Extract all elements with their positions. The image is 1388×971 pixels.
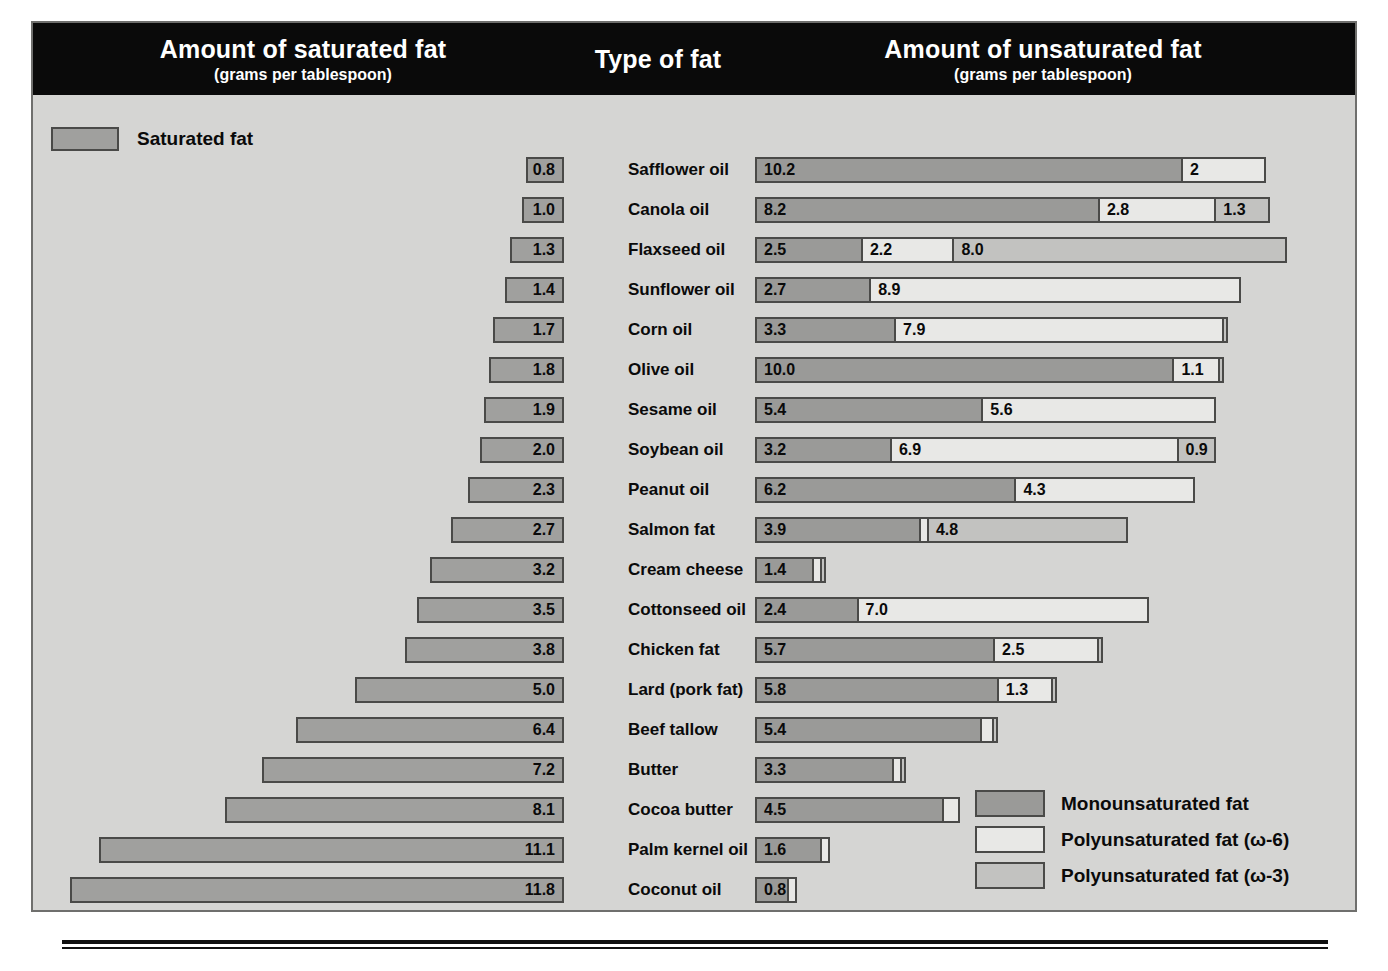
saturated-fat-swatch <box>51 127 119 151</box>
saturated-fat-bar: 1.0 <box>522 197 564 223</box>
saturated-fat-bar: 2.3 <box>468 477 564 503</box>
unsaturated-segment-o6 <box>942 799 958 821</box>
unsaturated-fat-bar: 5.45.6 <box>755 397 1216 423</box>
footer-rule-thick <box>62 940 1328 944</box>
saturated-fat-bar: 5.0 <box>355 677 565 703</box>
header-saturated-title: Amount of saturated fat <box>160 35 447 63</box>
chart-row: 3.8Chicken fat5.72.5 <box>33 630 1355 670</box>
saturated-fat-value: 2.3 <box>533 481 555 499</box>
segment-value: 8.2 <box>757 201 786 219</box>
segment-value: 1.3 <box>1216 201 1245 219</box>
segment-value: 7.0 <box>859 601 888 619</box>
saturated-fat-bar: 8.1 <box>225 797 564 823</box>
unsaturated-segment-o6 <box>787 879 795 901</box>
unsaturated-segment-mufa: 2.7 <box>757 279 869 301</box>
saturated-fat-bar: 3.8 <box>405 637 564 663</box>
saturated-fat-bar: 1.8 <box>489 357 564 383</box>
unsaturated-fat-bar: 5.4 <box>755 717 998 743</box>
saturated-fat-value: 3.2 <box>533 561 555 579</box>
segment-value: 5.4 <box>757 721 786 739</box>
chart-row: 0.8Safflower oil10.22 <box>33 150 1355 190</box>
chart-row: 2.0Soybean oil3.26.90.9 <box>33 430 1355 470</box>
saturated-fat-bar: 1.7 <box>493 317 564 343</box>
chart-body: Saturated fat Monounsaturated fatPolyuns… <box>33 95 1355 912</box>
chart-row: 11.1Palm kernel oil1.6 <box>33 830 1355 870</box>
unsaturated-segment-mufa: 10.0 <box>757 359 1172 381</box>
segment-value: 5.6 <box>983 401 1012 419</box>
header-unsaturated-subtitle: (grams per tablespoon) <box>954 66 1132 84</box>
unsaturated-segment-mufa: 8.2 <box>757 199 1098 221</box>
chart-row: 8.1Cocoa butter4.5 <box>33 790 1355 830</box>
saturated-fat-value: 1.4 <box>533 281 555 299</box>
saturated-fat-bar: 2.7 <box>451 517 564 543</box>
chart-row: 11.8Coconut oil0.8 <box>33 870 1355 910</box>
unsaturated-segment-o6: 2.5 <box>993 639 1097 661</box>
unsaturated-segment-mufa: 5.4 <box>757 399 981 421</box>
saturated-fat-value: 11.8 <box>525 881 555 899</box>
saturated-fat-bar: 3.5 <box>417 597 564 623</box>
unsaturated-segment-o6: 8.9 <box>869 279 1239 301</box>
header-unsaturated-title: Amount of unsaturated fat <box>884 35 1202 63</box>
header-saturated-subtitle: (grams per tablespoon) <box>214 66 392 84</box>
unsaturated-segment-mufa: 5.4 <box>757 719 980 741</box>
saturated-fat-value: 1.8 <box>533 361 555 379</box>
unsaturated-fat-bar: 3.26.90.9 <box>755 437 1216 463</box>
segment-value: 5.4 <box>757 401 786 419</box>
chart-row: 1.7Corn oil3.37.9 <box>33 310 1355 350</box>
unsaturated-segment-mufa: 2.5 <box>757 239 861 261</box>
segment-value: 6.2 <box>757 481 786 499</box>
saturated-fat-legend: Saturated fat <box>51 127 253 151</box>
unsaturated-segment-o3 <box>1097 639 1101 661</box>
unsaturated-segment-o3 <box>900 759 904 781</box>
chart-row: 1.4Sunflower oil2.78.9 <box>33 270 1355 310</box>
unsaturated-segment-mufa: 0.8 <box>757 879 787 901</box>
saturated-fat-bar: 1.4 <box>505 277 564 303</box>
saturated-fat-bar: 11.1 <box>99 837 564 863</box>
unsaturated-segment-o3: 0.9 <box>1177 439 1214 461</box>
unsaturated-fat-bar: 8.22.81.3 <box>755 197 1270 223</box>
segment-value: 0.8 <box>757 881 786 899</box>
segment-value: 2.5 <box>995 641 1024 659</box>
segment-value: 8.0 <box>954 241 983 259</box>
saturated-fat-value: 8.1 <box>533 801 555 819</box>
saturated-fat-bar: 1.3 <box>510 237 564 263</box>
segment-value: 10.2 <box>757 161 795 179</box>
unsaturated-fat-bar: 3.3 <box>755 757 906 783</box>
saturated-fat-bar: 0.8 <box>526 157 564 183</box>
chart-row: 2.7Salmon fat3.94.8 <box>33 510 1355 550</box>
saturated-fat-value: 1.0 <box>533 201 555 219</box>
saturated-fat-value: 1.3 <box>533 241 555 259</box>
segment-value: 6.9 <box>892 441 921 459</box>
unsaturated-fat-bar: 4.5 <box>755 797 960 823</box>
unsaturated-segment-mufa: 6.2 <box>757 479 1014 501</box>
unsaturated-segment-o6: 4.3 <box>1014 479 1193 501</box>
unsaturated-fat-bar: 5.81.3 <box>755 677 1057 703</box>
unsaturated-segment-o6: 2.8 <box>1098 199 1214 221</box>
saturated-fat-legend-label: Saturated fat <box>137 128 253 150</box>
saturated-fat-value: 3.8 <box>533 641 555 659</box>
saturated-fat-value: 3.5 <box>533 601 555 619</box>
unsaturated-segment-o6 <box>980 719 992 741</box>
unsaturated-fat-bar: 2.78.9 <box>755 277 1241 303</box>
saturated-fat-value: 2.7 <box>533 521 555 539</box>
footer-rule-thin <box>62 947 1328 949</box>
unsaturated-fat-bar: 10.22 <box>755 157 1266 183</box>
unsaturated-segment-o3: 1.3 <box>1214 199 1268 221</box>
unsaturated-segment-o6: 2.2 <box>861 239 952 261</box>
unsaturated-segment-o6: 5.6 <box>981 399 1214 421</box>
unsaturated-segment-o3 <box>1051 679 1055 701</box>
segment-value: 0.9 <box>1179 441 1208 459</box>
chart-row: 5.0Lard (pork fat)5.81.3 <box>33 670 1355 710</box>
saturated-fat-value: 5.0 <box>533 681 555 699</box>
unsaturated-fat-bar: 3.94.8 <box>755 517 1128 543</box>
segment-value: 2.2 <box>863 241 892 259</box>
chart-row: 2.3Peanut oil6.24.3 <box>33 470 1355 510</box>
unsaturated-segment-o6 <box>892 759 900 781</box>
segment-value: 1.1 <box>1174 361 1203 379</box>
saturated-fat-bar: 7.2 <box>262 757 564 783</box>
segment-value: 10.0 <box>757 361 795 379</box>
unsaturated-fat-bar: 2.52.28.0 <box>755 237 1287 263</box>
unsaturated-segment-o6: 2 <box>1181 159 1264 181</box>
segment-value: 3.9 <box>757 521 786 539</box>
chart-header: Amount of saturated fat (grams per table… <box>33 23 1355 95</box>
